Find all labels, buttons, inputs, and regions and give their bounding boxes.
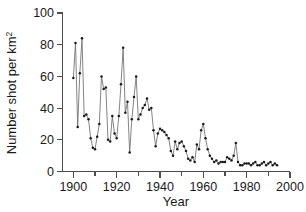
chart-figure: Number shot per km2 Year 020406080100 19… — [0, 0, 306, 212]
data-point-marker — [94, 148, 97, 151]
data-point-marker — [198, 148, 201, 151]
data-point-marker — [118, 115, 121, 118]
data-point-marker — [167, 137, 170, 140]
data-point-marker — [170, 150, 173, 153]
data-point-marker — [79, 72, 82, 75]
data-point-marker — [224, 161, 227, 164]
y-axis-ticks — [57, 13, 63, 172]
data-point-marker — [154, 145, 157, 148]
data-point-marker — [189, 159, 192, 162]
data-point-marker — [200, 129, 203, 132]
data-point-marker — [161, 129, 164, 132]
y-tick-label: 20 — [40, 133, 54, 147]
series-line-number-shot — [73, 38, 277, 165]
data-point-marker — [217, 162, 220, 165]
data-point-marker — [113, 132, 116, 135]
series-markers-number-shot — [72, 37, 278, 166]
data-point-marker — [135, 75, 138, 78]
data-point-marker — [141, 107, 144, 110]
data-point-marker — [239, 164, 242, 167]
data-point-marker — [144, 104, 147, 107]
data-point-marker — [96, 135, 99, 138]
data-point-marker — [172, 154, 175, 157]
data-point-marker — [202, 123, 205, 126]
data-point-marker — [258, 164, 261, 167]
data-point-marker — [174, 140, 177, 143]
data-point-marker — [241, 164, 244, 167]
x-tick-label: 1940 — [146, 180, 174, 194]
data-point-marker — [105, 86, 108, 89]
data-point-marker — [150, 107, 153, 110]
data-point-marker — [187, 158, 190, 161]
data-point-marker — [109, 140, 112, 143]
data-point-marker — [252, 162, 255, 165]
data-point-marker — [269, 161, 272, 164]
data-point-marker — [243, 162, 246, 165]
data-point-marker — [100, 75, 103, 78]
data-point-marker — [245, 162, 248, 165]
y-tick-label: 100 — [33, 6, 54, 20]
data-point-marker — [213, 161, 216, 164]
data-point-marker — [211, 158, 214, 161]
data-point-marker — [209, 154, 212, 157]
y-tick-label: 0 — [47, 165, 54, 179]
data-point-marker — [81, 37, 84, 40]
data-point-marker — [226, 156, 229, 159]
data-point-marker — [178, 142, 181, 145]
data-point-marker — [159, 127, 162, 130]
y-tick-label: 40 — [40, 102, 54, 116]
x-axis-tick-labels: 190019201940196019802000 — [59, 180, 304, 194]
data-point-marker — [92, 146, 95, 149]
data-point-marker — [248, 162, 251, 165]
data-point-marker — [254, 161, 257, 164]
data-point-marker — [176, 148, 179, 151]
y-axis-title: Number shot per km2 — [4, 31, 19, 154]
data-point-marker — [85, 113, 88, 116]
data-point-marker — [271, 164, 274, 167]
data-point-marker — [185, 150, 188, 153]
line-chart-plot: Number shot per km2 Year 020406080100 19… — [0, 0, 306, 212]
data-point-marker — [235, 142, 238, 145]
data-point-marker — [115, 137, 118, 140]
data-point-marker — [124, 112, 127, 115]
data-point-marker — [191, 156, 194, 159]
data-point-marker — [222, 161, 225, 164]
data-point-marker — [131, 118, 134, 121]
data-point-marker — [98, 123, 101, 126]
data-point-marker — [274, 162, 277, 165]
data-point-marker — [180, 140, 183, 143]
data-point-marker — [102, 88, 105, 91]
data-point-marker — [122, 47, 125, 50]
data-point-marker — [111, 115, 114, 118]
data-point-marker — [204, 137, 207, 140]
x-axis-ticks-minor — [95, 172, 268, 176]
x-tick-label: 1960 — [189, 180, 217, 194]
data-point-marker — [276, 164, 279, 167]
data-point-marker — [133, 96, 136, 99]
x-tick-label: 1900 — [59, 180, 87, 194]
data-point-marker — [152, 129, 155, 132]
y-axis-tick-labels: 020406080100 — [33, 6, 54, 179]
y-tick-label: 80 — [40, 38, 54, 52]
data-point-marker — [228, 158, 231, 161]
data-point-marker — [261, 162, 264, 165]
data-point-marker — [163, 131, 166, 134]
data-point-marker — [232, 154, 235, 157]
data-point-marker — [219, 161, 222, 164]
data-point-marker — [267, 162, 270, 165]
data-point-marker — [128, 151, 131, 154]
x-tick-label: 1920 — [103, 180, 131, 194]
data-point-marker — [256, 164, 259, 167]
data-point-marker — [193, 161, 196, 164]
data-point-marker — [157, 132, 160, 135]
data-point-marker — [215, 159, 218, 162]
data-point-marker — [263, 161, 266, 164]
data-point-marker — [165, 134, 168, 137]
data-point-marker — [76, 126, 79, 128]
data-point-marker — [237, 161, 240, 164]
data-point-marker — [196, 143, 199, 146]
data-point-marker — [250, 164, 253, 167]
data-point-marker — [265, 164, 268, 167]
data-point-marker — [74, 42, 77, 45]
data-point-marker — [126, 101, 129, 104]
